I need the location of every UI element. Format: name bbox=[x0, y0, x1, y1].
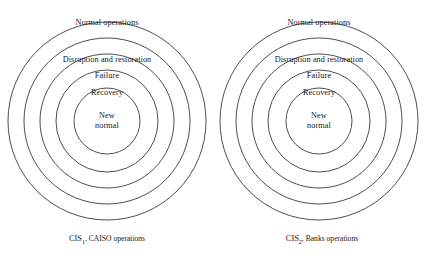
caption-cis1-prefix: CIS bbox=[69, 234, 82, 243]
cis1-label-recovery: Recovery bbox=[57, 89, 157, 98]
figure-root: Normal operations Disruption and restora… bbox=[0, 0, 427, 259]
caption-cis1: CIS1, CAISO operations bbox=[27, 234, 187, 243]
cis2-label-disruption-and-restoration: Disruption and restoration bbox=[234, 56, 404, 65]
cis1-label-failure: Failure bbox=[57, 72, 157, 81]
caption-cis2: CIS2, Banks operations bbox=[242, 234, 402, 243]
cis1-label-new-normal: New normal bbox=[77, 111, 137, 132]
caption-cis1-suffix: , CAISO operations bbox=[85, 234, 145, 243]
cis2-label-new-normal: New normal bbox=[289, 111, 349, 132]
cis2-label-failure: Failure bbox=[269, 72, 369, 81]
cis1-label-disruption-and-restoration: Disruption and restoration bbox=[22, 56, 192, 65]
caption-cis2-suffix: , Banks operations bbox=[302, 234, 358, 243]
cis2-label-recovery: Recovery bbox=[269, 89, 369, 98]
cis2-label-new-normal-line2: normal bbox=[307, 121, 331, 130]
concentric-circles-canvas bbox=[0, 0, 427, 259]
cis2-label-new-normal-line1: New bbox=[311, 111, 327, 120]
caption-cis2-prefix: CIS bbox=[286, 234, 299, 243]
cis1-label-normal-operations: Normal operations bbox=[37, 19, 177, 28]
cis1-label-new-normal-line1: New bbox=[99, 111, 115, 120]
cis2-label-normal-operations: Normal operations bbox=[249, 19, 389, 28]
cis1-label-new-normal-line2: normal bbox=[95, 121, 119, 130]
